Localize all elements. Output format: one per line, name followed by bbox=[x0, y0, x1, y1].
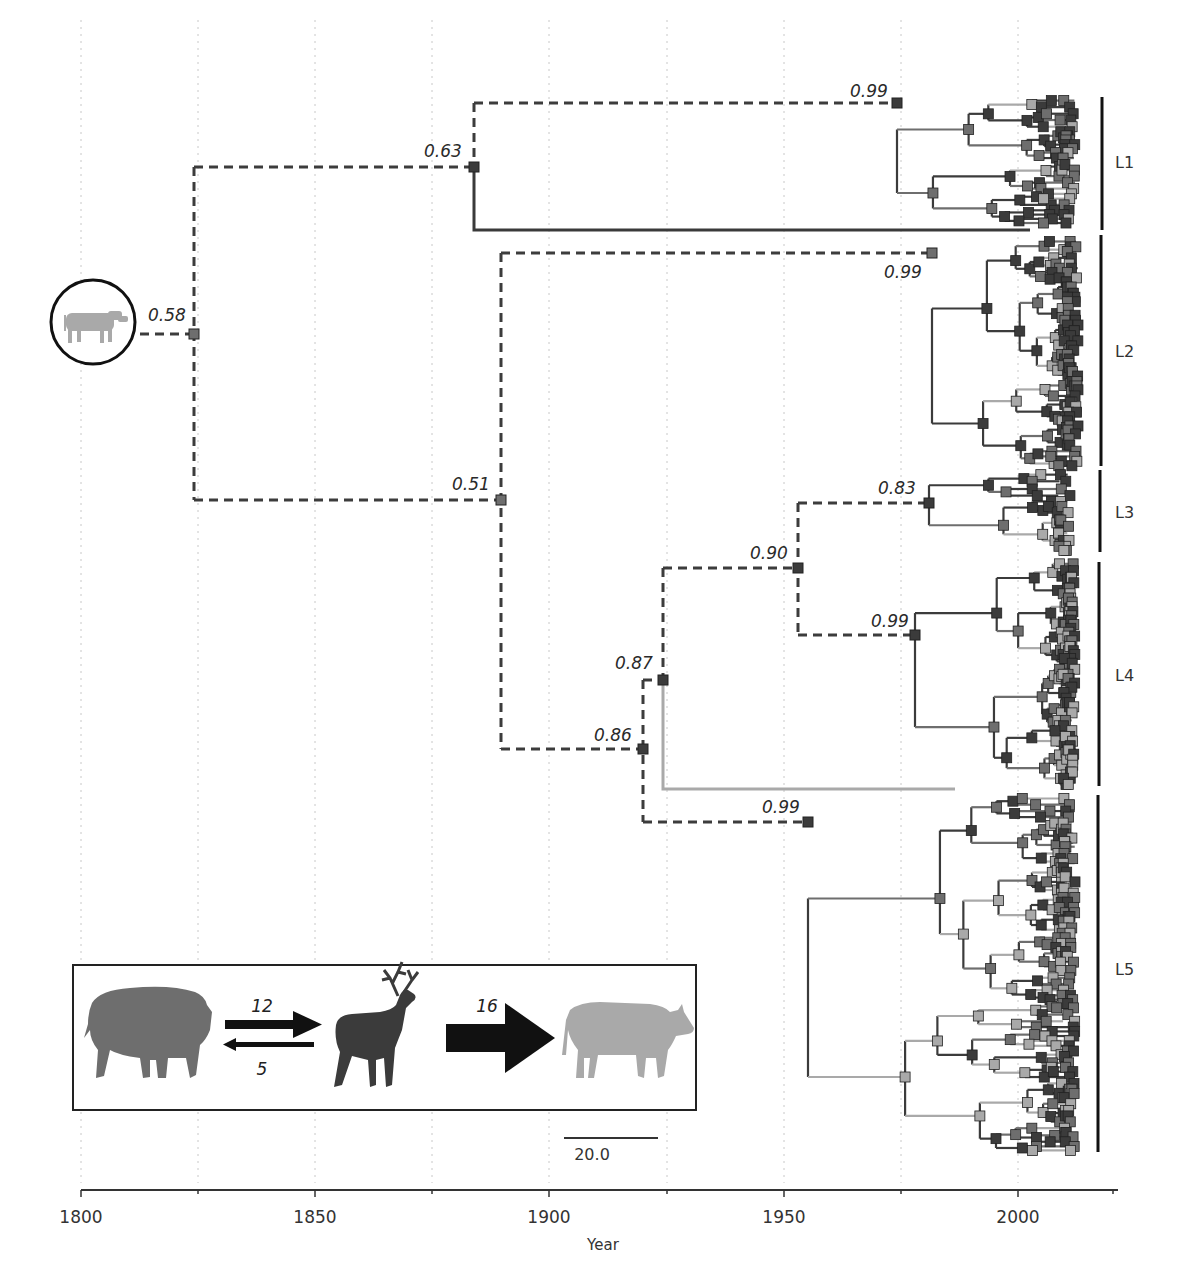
root-host-cattle-icon bbox=[51, 280, 135, 364]
bison-icon bbox=[84, 987, 212, 1078]
clade-labels: L1 L2 L3 L4 L5 bbox=[1115, 153, 1134, 979]
support-L2: 0.99 bbox=[884, 262, 922, 282]
clade-label-L2: L2 bbox=[1115, 342, 1134, 361]
support-L1: 0.99 bbox=[850, 81, 888, 101]
clade-label-L4: L4 bbox=[1115, 666, 1134, 685]
support-0.83: 0.83 bbox=[878, 478, 916, 498]
clade-label-L5: L5 bbox=[1115, 960, 1134, 979]
support-0.51: 0.51 bbox=[452, 474, 490, 494]
tick-1850: 1850 bbox=[293, 1207, 336, 1227]
scale-bar: 20.0 bbox=[564, 1138, 658, 1164]
tick-1800: 1800 bbox=[59, 1207, 102, 1227]
support-0.63: 0.63 bbox=[424, 141, 462, 161]
support-L5: 0.99 bbox=[762, 797, 800, 817]
count-elk-to-bison: 5 bbox=[257, 1059, 268, 1079]
tick-1950: 1950 bbox=[762, 1207, 805, 1227]
backbone-dashed-branches bbox=[140, 103, 932, 822]
scale-bar-label: 20.0 bbox=[574, 1145, 610, 1164]
long-branches bbox=[474, 167, 1030, 789]
support-root: 0.58 bbox=[148, 305, 186, 325]
host-transition-legend: 12 5 16 bbox=[73, 962, 696, 1110]
x-axis: 1800 1850 1900 1950 2000 Year bbox=[59, 1190, 1118, 1254]
phylogenetic-tree-figure: 1800 1850 1900 1950 2000 Year bbox=[0, 0, 1184, 1287]
clade-bars bbox=[1098, 97, 1102, 1152]
tick-2000: 2000 bbox=[996, 1207, 1039, 1227]
count-elk-to-cattle: 16 bbox=[476, 996, 498, 1016]
count-bison-to-elk: 12 bbox=[251, 996, 273, 1016]
backbone-nodes bbox=[189, 98, 937, 827]
support-0.90: 0.90 bbox=[750, 543, 788, 563]
clade-label-L1: L1 bbox=[1115, 153, 1134, 172]
support-L4: 0.99 bbox=[871, 611, 909, 631]
x-axis-title: Year bbox=[586, 1236, 620, 1254]
support-0.86: 0.86 bbox=[594, 725, 632, 745]
tick-1900: 1900 bbox=[527, 1207, 570, 1227]
support-labels: 0.58 0.63 0.99 0.51 0.99 0.86 0.87 0.90 … bbox=[148, 81, 922, 817]
clade-label-L3: L3 bbox=[1115, 503, 1134, 522]
support-0.87: 0.87 bbox=[615, 653, 653, 673]
